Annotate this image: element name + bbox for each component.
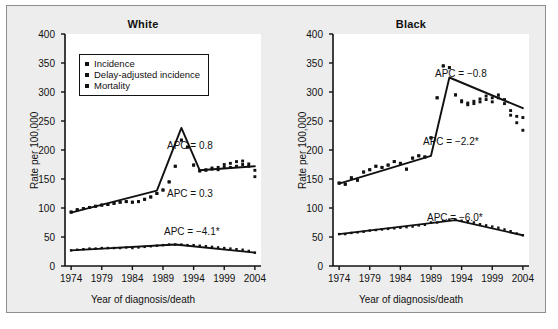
y-axis-tick-label: 400 — [291, 29, 323, 40]
legend-label: Mortality — [94, 80, 130, 91]
apc-label-incidence-recent-black: APC = −0.8 — [435, 68, 487, 79]
apc-label-delay-adjusted-white: APC = 0.3 — [167, 188, 213, 199]
x-axis-label-white: Year of diagnosis/death — [7, 294, 279, 305]
y-axis-tick-label: 0 — [291, 261, 323, 272]
square-marker-icon — [85, 62, 89, 66]
x-axis-label-black: Year of diagnosis/death — [275, 294, 547, 305]
chart-panel-black: Black APC = −0.8 APC = −2.2* APC = −6.0*… — [275, 6, 547, 314]
square-marker-icon — [85, 84, 89, 88]
legend-item-mortality: Mortality — [85, 80, 200, 91]
x-axis-tick-label: 2004 — [505, 273, 541, 284]
legend-item-delay-adjusted-incidence: Delay-adjusted incidence — [85, 69, 200, 80]
y-axis-tick-label: 100 — [291, 203, 323, 214]
figure-frame: White Incidence Delay-adjusted incidence… — [6, 5, 546, 313]
x-axis-tick-label: 2004 — [237, 273, 273, 284]
y-axis-tick-label: 0 — [23, 261, 55, 272]
y-axis-tick-label: 200 — [291, 145, 323, 156]
y-axis-tick-label: 150 — [23, 174, 55, 185]
figure-caption — [6, 316, 546, 328]
square-marker-icon — [85, 73, 89, 77]
y-axis-tick-label: 100 — [23, 203, 55, 214]
y-axis-tick-label: 300 — [23, 87, 55, 98]
apc-label-mortality-black: APC = −6.0* — [427, 212, 483, 223]
legend-label: Incidence — [94, 58, 135, 69]
figure-container: White Incidence Delay-adjusted incidence… — [0, 0, 558, 329]
y-axis-tick-label: 200 — [23, 145, 55, 156]
apc-label-incidence-recent-white: APC = 0.8 — [167, 140, 213, 151]
chart-panel-white: White Incidence Delay-adjusted incidence… — [7, 6, 279, 314]
legend-item-incidence: Incidence — [85, 58, 200, 69]
y-axis-tick-label: 150 — [291, 174, 323, 185]
apc-label-mortality-white: APC = −4.1* — [164, 226, 220, 237]
y-axis-tick-label: 300 — [291, 87, 323, 98]
legend-label: Delay-adjusted incidence — [94, 69, 200, 80]
chart-legend: Incidence Delay-adjusted incidence Morta… — [79, 54, 209, 96]
y-axis-tick-label: 350 — [23, 58, 55, 69]
y-axis-tick-label: 250 — [291, 116, 323, 127]
y-axis-tick-label: 50 — [291, 232, 323, 243]
y-axis-tick-label: 50 — [23, 232, 55, 243]
apc-label-delay-adjusted-black: APC = −2.2* — [423, 136, 479, 147]
y-axis-tick-label: 250 — [23, 116, 55, 127]
y-axis-tick-label: 400 — [23, 29, 55, 40]
y-axis-tick-label: 350 — [291, 58, 323, 69]
